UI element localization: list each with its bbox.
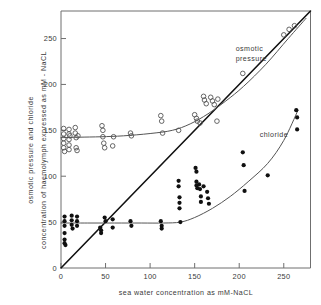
y-tick-label: 250 [44, 34, 57, 43]
chloride-data-point [177, 179, 181, 183]
chloride-data-point [62, 215, 66, 219]
chloride-data-point [177, 206, 181, 210]
chloride-data-point [197, 182, 201, 186]
chloride-data-point [266, 173, 270, 177]
chloride-data-point [177, 201, 181, 205]
chloride-data-point [177, 184, 181, 188]
chloride-data-point [294, 108, 298, 112]
x-tick-label: 50 [101, 272, 110, 281]
chloride-data-point [198, 187, 202, 191]
chloride-data-point [75, 224, 79, 228]
chloride-data-point [160, 226, 164, 230]
chloride-data-point [206, 196, 210, 200]
chloride-data-point [103, 215, 107, 219]
x-tick-label: 0 [59, 272, 63, 281]
chloride-data-point [128, 219, 132, 223]
x-tick-label: 100 [143, 272, 156, 281]
chloride-data-point [62, 224, 66, 228]
chloride-data-point [242, 189, 246, 193]
figure-osmoregulation-chart: 050100150200250 050100150200250 osmoticp… [0, 0, 321, 305]
y-axis-label-line1: osmotic pressure and chloride [27, 96, 35, 204]
y-tick-label: 50 [48, 218, 57, 227]
chloride-data-point [63, 243, 67, 247]
chloride-data-point [129, 224, 133, 228]
chloride-data-point [111, 226, 115, 230]
x-axis-label: sea water concentration as mM-NaCL [119, 289, 253, 297]
x-tick-label: 200 [233, 272, 246, 281]
chloride-data-point [207, 202, 211, 206]
chloride-data-point [70, 214, 74, 218]
x-tick-label: 250 [277, 272, 290, 281]
chloride-data-point [205, 190, 209, 194]
annotation-pressure: pressure [236, 55, 267, 63]
chloride-data-point [99, 231, 103, 235]
chloride-data-point [62, 219, 66, 223]
chloride-data-point [103, 219, 107, 223]
chloride-data-point [201, 184, 205, 188]
chloride-data-point [199, 194, 203, 198]
chart-canvas: 050100150200250 050100150200250 osmoticp… [0, 0, 321, 305]
annotation-osmotic: osmotic [236, 45, 264, 53]
chloride-data-point [70, 223, 74, 227]
y-axis-label-line2: concentration of haemolymph expressed as… [40, 51, 48, 249]
annotation-chloride: chloride [260, 131, 288, 139]
chloride-data-point [70, 218, 74, 222]
chloride-data-point [177, 195, 181, 199]
chloride-data-point [111, 217, 115, 221]
chloride-data-point [295, 115, 299, 119]
chloride-data-point [75, 219, 79, 223]
chloride-data-point [62, 237, 66, 241]
x-tick-label: 150 [188, 272, 201, 281]
chart-background [0, 0, 321, 305]
chloride-data-point [178, 220, 182, 224]
chloride-data-point [199, 200, 203, 204]
y-tick-label: 0 [53, 264, 57, 273]
chloride-data-point [295, 127, 299, 131]
chloride-data-point [193, 166, 197, 170]
chloride-data-point [194, 170, 198, 174]
chloride-data-point [62, 231, 66, 235]
chloride-data-point [242, 163, 246, 167]
chloride-data-point [75, 215, 79, 219]
chloride-data-point [70, 226, 74, 230]
chloride-data-point [241, 150, 245, 154]
chloride-data-point [159, 219, 163, 223]
